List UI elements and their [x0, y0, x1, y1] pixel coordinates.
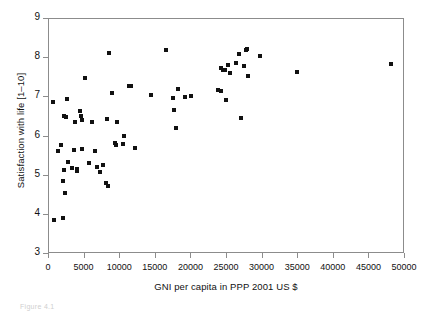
- data-point: [129, 84, 133, 88]
- data-point: [106, 184, 110, 188]
- data-point: [73, 120, 77, 124]
- y-tick-label: 3: [24, 246, 40, 257]
- data-point: [171, 96, 175, 100]
- y-tick-label: 5: [24, 168, 40, 179]
- x-tick-mark: [333, 253, 334, 258]
- data-point: [98, 170, 102, 174]
- data-point: [239, 116, 243, 120]
- data-point: [237, 52, 241, 56]
- data-point: [59, 143, 63, 147]
- x-tick-mark: [119, 253, 120, 258]
- y-tick-label: 8: [24, 50, 40, 61]
- data-point: [83, 76, 87, 80]
- data-point: [64, 115, 68, 119]
- data-point: [52, 218, 56, 222]
- y-tick-label: 7: [24, 89, 40, 100]
- x-tick-mark: [155, 253, 156, 258]
- data-point: [80, 147, 84, 151]
- data-point: [105, 117, 109, 121]
- data-point: [90, 120, 94, 124]
- data-point: [101, 163, 105, 167]
- data-point: [122, 134, 126, 138]
- x-tick-mark: [404, 253, 405, 258]
- x-tick-mark: [297, 253, 298, 258]
- data-point: [51, 100, 55, 104]
- data-point: [80, 118, 84, 122]
- data-point: [75, 169, 79, 173]
- data-point: [72, 148, 76, 152]
- data-point: [164, 48, 168, 52]
- y-tick-label: 4: [24, 207, 40, 218]
- data-point: [246, 74, 250, 78]
- data-point: [93, 149, 97, 153]
- data-point: [65, 97, 69, 101]
- data-point: [121, 142, 125, 146]
- y-tick-label: 9: [24, 11, 40, 22]
- data-point: [176, 87, 180, 91]
- data-point: [224, 98, 228, 102]
- data-point: [61, 179, 65, 183]
- data-point: [183, 95, 187, 99]
- data-point: [66, 160, 70, 164]
- data-point: [219, 89, 223, 93]
- data-point: [245, 47, 249, 51]
- data-point: [95, 165, 99, 169]
- x-axis-label: GNI per capita in PPP 2001 US $: [48, 281, 404, 292]
- x-tick-mark: [190, 253, 191, 258]
- data-point: [226, 63, 230, 67]
- data-point: [295, 70, 299, 74]
- data-point: [189, 94, 193, 98]
- data-point: [87, 161, 91, 165]
- x-tick-mark: [84, 253, 85, 258]
- data-point: [114, 143, 118, 147]
- data-point: [389, 62, 393, 66]
- x-tick-mark: [262, 253, 263, 258]
- x-tick-mark: [48, 253, 49, 258]
- data-point: [149, 93, 153, 97]
- data-point: [62, 168, 66, 172]
- data-point: [115, 120, 119, 124]
- data-point: [133, 146, 137, 150]
- data-point: [172, 108, 176, 112]
- scatter-plot-figure: Satisfaction with life [1–10] 3456789 05…: [0, 0, 430, 313]
- data-point: [56, 149, 60, 153]
- data-point: [78, 109, 82, 113]
- data-point: [107, 51, 111, 55]
- data-point: [258, 54, 262, 58]
- data-point: [242, 64, 246, 68]
- data-point: [228, 71, 232, 75]
- data-point: [61, 216, 65, 220]
- data-point: [234, 61, 238, 65]
- data-point: [223, 68, 227, 72]
- figure-caption: Figure 4.1: [20, 303, 55, 310]
- x-tick-mark: [368, 253, 369, 258]
- data-point: [174, 126, 178, 130]
- x-tick-label: 50000: [374, 262, 430, 272]
- x-tick-mark: [226, 253, 227, 258]
- y-tick-label: 6: [24, 129, 40, 140]
- data-point: [63, 191, 67, 195]
- data-point: [110, 91, 114, 95]
- plot-area: [48, 18, 404, 253]
